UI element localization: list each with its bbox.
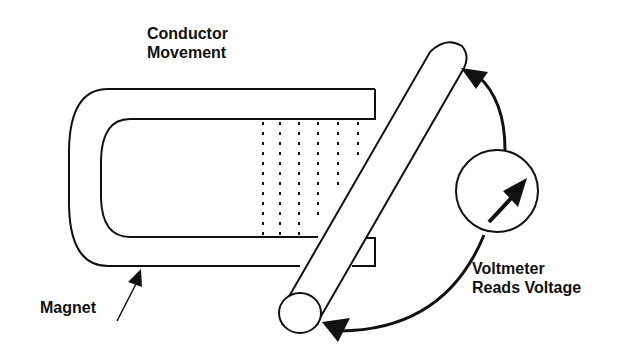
conductor-movement-label-line2: Movement <box>147 43 228 62</box>
conductor-body <box>287 42 467 318</box>
voltmeter-dial <box>456 150 538 232</box>
lower-wire <box>340 235 484 331</box>
conductor-end-cap <box>279 293 321 333</box>
upper-wire-arrow-icon <box>461 68 488 89</box>
conductor-movement-label-line1: Conductor <box>147 24 228 43</box>
upper-wire <box>478 76 505 150</box>
voltmeter <box>456 150 538 232</box>
voltmeter-label-line2: Reads Voltage <box>472 278 581 297</box>
conductor-movement-label: Conductor Movement <box>147 24 228 62</box>
conductor <box>279 42 467 333</box>
magnet-label: Magnet <box>40 298 96 317</box>
voltmeter-label-line1: Voltmeter <box>472 259 581 278</box>
magnet-pointer-arrow-icon <box>128 269 142 287</box>
induction-diagram <box>0 0 644 356</box>
voltmeter-label: Voltmeter Reads Voltage <box>472 259 581 297</box>
magnet-pointer-line <box>117 282 137 321</box>
